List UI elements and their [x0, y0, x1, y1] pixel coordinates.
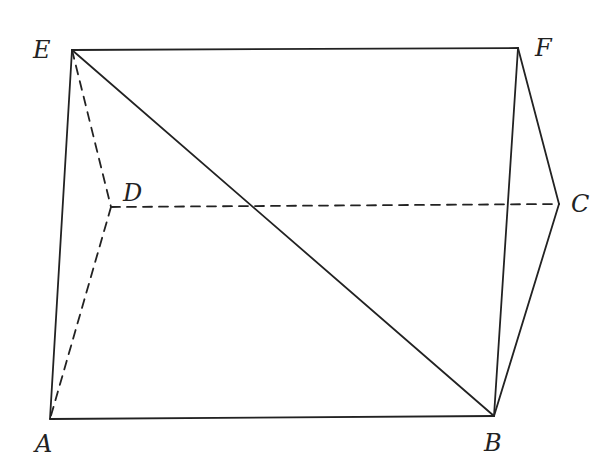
edge-fb [494, 48, 518, 416]
vertex-label-c: C [571, 192, 589, 216]
edge-ef [72, 48, 518, 50]
vertex-label-b: B [484, 431, 502, 455]
vertex-label-e: E [33, 38, 51, 62]
hidden-edge-da [50, 207, 111, 419]
vertex-label-a: A [35, 432, 52, 456]
edge-eb [72, 50, 494, 416]
diagram-lines [0, 0, 615, 474]
edge-ea [50, 50, 72, 419]
edge-fc [518, 48, 559, 204]
hidden-edge-ed [72, 50, 111, 207]
vertex-label-d: D [123, 181, 142, 205]
vertex-label-f: F [535, 36, 552, 60]
hidden-edge-dc [111, 204, 559, 207]
geometry-diagram: E F D C A B [0, 0, 615, 474]
edge-cb [494, 204, 559, 416]
edge-ab [50, 416, 494, 419]
